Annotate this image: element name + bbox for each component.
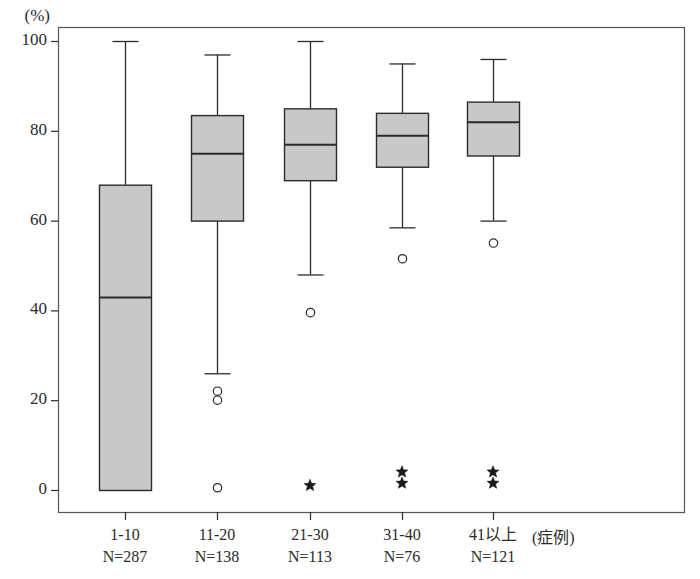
outlier-circle-marker (398, 255, 406, 263)
y-axis-tick-label: 60 (30, 210, 47, 230)
outlier-star-marker (396, 477, 408, 488)
box-iqr-rect (100, 185, 152, 490)
box-plot-group (468, 59, 520, 488)
outlier-star-marker (487, 466, 499, 477)
box-plot-group (192, 54, 244, 491)
box-plot-chart: (%) 020406080100 1-10N=28711-20N=13821-3… (0, 0, 700, 579)
y-axis-tick-label: 40 (30, 299, 47, 319)
y-axis-tick-label: 0 (39, 479, 48, 499)
y-axis-tick-label: 80 (30, 120, 47, 140)
x-axis-unit-label: (症例) (532, 524, 575, 548)
outlier-circle-marker (306, 308, 314, 316)
outlier-circle-marker (489, 239, 497, 247)
outlier-circle-marker (213, 396, 221, 404)
box-iqr-rect (377, 113, 429, 167)
box-plot-group (377, 63, 429, 488)
x-category-count: N=121 (433, 546, 553, 568)
y-axis-tick-label: 100 (22, 30, 48, 50)
outlier-circle-marker (213, 387, 221, 395)
outlier-star-marker (487, 477, 499, 488)
plot-area (0, 0, 700, 579)
y-axis-tick-label: 20 (30, 389, 47, 409)
outlier-star-marker (396, 466, 408, 477)
box-iqr-rect (468, 102, 520, 156)
box-iqr-rect (192, 116, 244, 222)
plot-frame (59, 28, 685, 513)
outlier-star-marker (304, 479, 316, 490)
box-plot-group (285, 41, 337, 491)
box-plot-group (100, 41, 152, 491)
outlier-circle-marker (213, 484, 221, 492)
